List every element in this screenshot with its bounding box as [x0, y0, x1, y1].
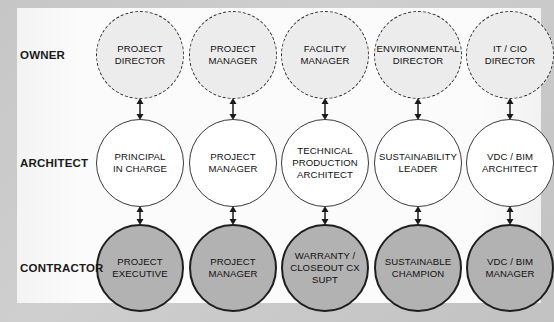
node-label: VDC / BIM ARCHITECT	[467, 151, 553, 175]
connector-owner-architect-col4	[501, 98, 519, 120]
node-owner-project-manager[interactable]: PROJECT MANAGER	[189, 11, 277, 99]
node-contractor-vdc-bim-manager[interactable]: VDC / BIM MANAGER	[466, 224, 554, 312]
row-label-architect: ARCHITECT	[20, 158, 130, 170]
node-architect-technical-production-architect[interactable]: TECHNICAL PRODUCTION ARCHITECT	[281, 119, 369, 207]
node-label: PROJECT MANAGER	[190, 151, 276, 175]
node-owner-it-cio-director[interactable]: IT / CIO DIRECTOR	[466, 11, 554, 99]
node-label: WARRANTY / CLOSEOUT CX SUPT	[283, 250, 367, 287]
connector-architect-contractor-col1	[224, 206, 242, 225]
node-owner-environmental-director[interactable]: ENVIRONMENTAL DIRECTOR	[374, 11, 462, 99]
connector-owner-architect-col2	[316, 98, 334, 120]
row-label-owner: OWNER	[20, 50, 130, 62]
connector-architect-contractor-col3	[409, 206, 427, 225]
connector-owner-architect-col1	[224, 98, 242, 120]
connector-owner-architect-col3	[409, 98, 427, 120]
node-label: VDC / BIM MANAGER	[468, 256, 552, 280]
node-label: TECHNICAL PRODUCTION ARCHITECT	[282, 145, 368, 182]
connector-architect-contractor-col0	[131, 206, 149, 225]
node-contractor-warranty-closeout-cx-supt[interactable]: WARRANTY / CLOSEOUT CX SUPT	[281, 224, 369, 312]
node-label: SUSTAINABLE CHAMPION	[376, 256, 460, 280]
org-diagram: OWNER ARCHITECT CONTRACTOR	[0, 0, 554, 322]
node-label: FACILITY MANAGER	[282, 43, 368, 67]
node-label: IT / CIO DIRECTOR	[467, 43, 553, 67]
connector-architect-contractor-col2	[316, 206, 334, 225]
node-architect-sustainability-leader[interactable]: SUSTAINABILITY LEADER	[374, 119, 462, 207]
node-label: SUSTAINABILITY LEADER	[375, 151, 461, 175]
connector-owner-architect-col0	[131, 98, 149, 120]
node-architect-project-manager[interactable]: PROJECT MANAGER	[189, 119, 277, 207]
row-label-contractor: CONTRACTOR	[20, 263, 130, 275]
node-label: PROJECT MANAGER	[191, 256, 275, 280]
node-owner-facility-manager[interactable]: FACILITY MANAGER	[281, 11, 369, 99]
node-contractor-sustainable-champion[interactable]: SUSTAINABLE CHAMPION	[374, 224, 462, 312]
node-architect-vdc-bim-architect[interactable]: VDC / BIM ARCHITECT	[466, 119, 554, 207]
node-label: PROJECT MANAGER	[190, 43, 276, 67]
node-label: ENVIRONMENTAL DIRECTOR	[375, 43, 461, 67]
connector-architect-contractor-col4	[501, 206, 519, 225]
node-contractor-project-manager[interactable]: PROJECT MANAGER	[189, 224, 277, 312]
